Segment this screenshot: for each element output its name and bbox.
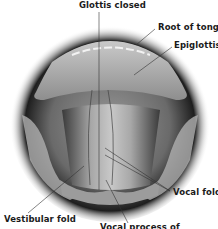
label-epiglottis: Epiglottis	[174, 40, 218, 50]
label-vocal-folds: Vocal folds	[173, 187, 218, 197]
label-vestibular-fold: Vestibular fold	[4, 214, 76, 224]
label-root-of-tongue: Root of tongue	[158, 22, 218, 32]
label-glottis-closed: Glottis closed	[79, 0, 146, 10]
label-vocal-process: Vocal process of	[100, 222, 180, 229]
